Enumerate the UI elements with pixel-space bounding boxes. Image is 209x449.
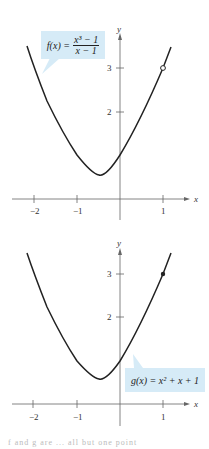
xtick-neg1: −1 [73,412,83,422]
xtick-1: 1 [161,412,166,422]
xtick-neg2: −2 [29,412,39,422]
g-curve [27,253,171,379]
ytick-2: 2 [107,312,112,322]
point-marker [161,272,165,276]
y-axis-label: y [116,238,121,248]
g-callout: g(x) = x² + x + 1 [125,368,205,392]
x-axis-label: x [193,399,198,409]
g-label: g(x) = x² + x + 1 [131,375,199,386]
ytick-3: 3 [107,269,112,279]
caption: f and g are ... all but one point [8,438,137,447]
